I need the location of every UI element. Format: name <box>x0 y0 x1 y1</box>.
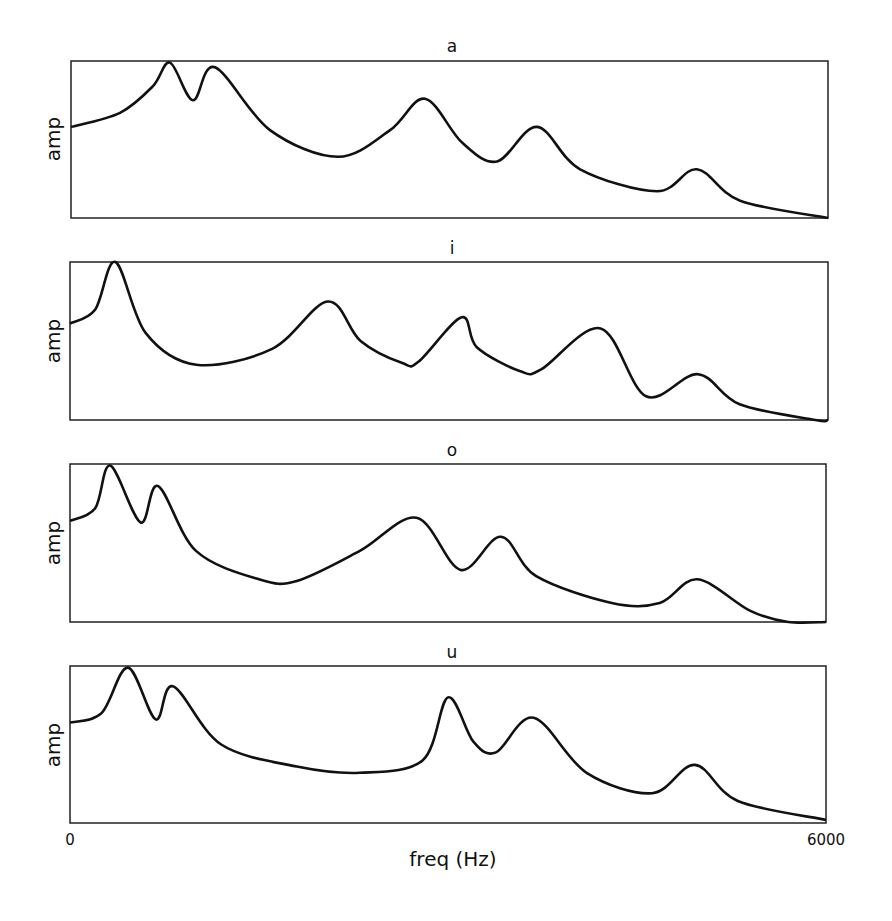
panel-i: i amp <box>41 238 828 421</box>
axes-frame-u <box>70 666 826 823</box>
panel-title-u: u <box>447 642 458 662</box>
formant-spectra-figure: a amp i amp o amp u amp 0 6000 freq (Hz) <box>0 0 892 921</box>
axes-frame-a <box>71 61 828 218</box>
x-axis-label: freq (Hz) <box>409 847 496 871</box>
panel-title-o: o <box>447 440 457 460</box>
panel-title-i: i <box>450 238 455 258</box>
panel-a: a amp <box>41 36 828 218</box>
y-axis-label-a: amp <box>41 117 65 161</box>
x-tick-label-min: 0 <box>65 831 75 849</box>
x-tick-label-max: 6000 <box>807 831 845 849</box>
axes-frame-i <box>70 262 828 420</box>
spectrum-line-a <box>71 62 828 218</box>
panel-o: o amp <box>41 440 826 623</box>
spectrum-line-i <box>70 262 828 421</box>
panel-u: u amp <box>41 642 826 823</box>
y-axis-label-u: amp <box>41 723 65 767</box>
y-axis-label-o: amp <box>41 521 65 565</box>
panel-title-a: a <box>447 36 457 56</box>
y-axis-label-i: amp <box>41 319 65 363</box>
axes-frame-o <box>70 464 826 622</box>
spectrum-line-o <box>70 465 826 622</box>
spectrum-line-u <box>70 668 826 820</box>
